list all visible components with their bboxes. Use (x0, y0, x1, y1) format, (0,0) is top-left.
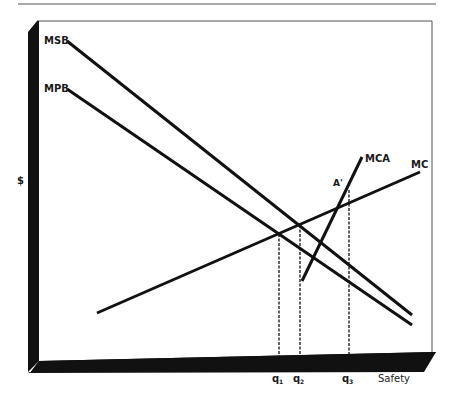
svg-text:1: 1 (279, 378, 283, 385)
svg-text:3: 3 (349, 378, 353, 385)
mca-label: MCA (365, 153, 390, 164)
msb-label: MSB (44, 35, 69, 46)
mpb-label: MPB (44, 83, 69, 94)
y-axis-label: $ (17, 175, 24, 186)
svg-text:2: 2 (300, 378, 304, 385)
q2-tick-label: q 2 (293, 373, 304, 385)
q3-tick-label: q 3 (342, 373, 353, 385)
mpb-line (67, 89, 412, 325)
mc-label: MC (411, 159, 428, 170)
a-prime-label: A' (333, 178, 343, 188)
x-axis-label: Safety (378, 373, 410, 384)
msb-line (67, 41, 412, 315)
economics-chart: MSB MPB MC MCA A' $ Safety q 1 q 2 q 3 (0, 0, 452, 397)
x-axis-bar-main (30, 352, 436, 373)
y-axis-bar (28, 21, 39, 372)
q1-tick-label: q 1 (272, 373, 283, 385)
